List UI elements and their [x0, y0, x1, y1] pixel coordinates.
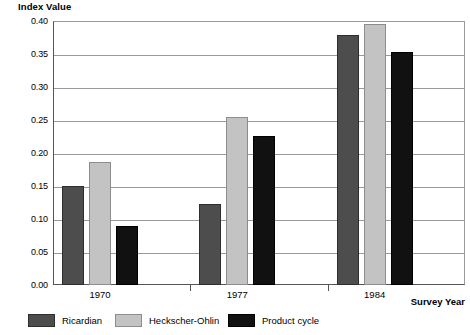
y-axis-tick-label: 0.25 [31, 115, 48, 125]
x-axis-tick [328, 285, 329, 291]
y-axis-tick-label: 0.05 [31, 247, 48, 257]
x-axis-tick-label: 1984 [364, 289, 385, 300]
y-axis-tick-label: 0.00 [31, 280, 48, 290]
bar-group [328, 21, 465, 285]
bar [253, 136, 275, 285]
legend: RicardianHeckscher-OhlinProduct cycle [0, 311, 470, 333]
legend-swatch [28, 314, 55, 327]
y-axis-tick-label: 0.10 [31, 214, 48, 224]
y-axis-tick-label: 0.35 [31, 49, 48, 59]
bar [391, 52, 413, 285]
y-axis-tick-labels: 0.000.050.100.150.200.250.300.350.40 [0, 0, 53, 335]
legend-item: Ricardian [28, 311, 102, 329]
bar [89, 162, 111, 285]
bar [337, 35, 359, 285]
bar [364, 24, 386, 285]
legend-swatch [115, 314, 142, 327]
y-axis-tick-label: 0.15 [31, 181, 48, 191]
legend-label: Product cycle [262, 315, 319, 326]
bar-group [190, 21, 327, 285]
legend-swatch [228, 314, 255, 327]
y-axis-tick-label: 0.30 [31, 82, 48, 92]
legend-label: Ricardian [62, 315, 102, 326]
legend-item: Product cycle [228, 311, 319, 329]
x-axis-title: Survey Year [411, 296, 465, 307]
bar [116, 226, 138, 285]
bars-layer [53, 21, 465, 285]
x-axis-tick-label: 1977 [227, 289, 248, 300]
legend-item: Heckscher-Ohlin [115, 311, 219, 329]
bar-chart: Index Value 0.000.050.100.150.200.250.30… [0, 0, 470, 335]
bar [226, 117, 248, 285]
bar [62, 186, 84, 285]
legend-label: Heckscher-Ohlin [149, 315, 219, 326]
x-axis-tick [190, 285, 191, 291]
x-axis-tick-label: 1970 [89, 289, 110, 300]
bar-group [53, 21, 190, 285]
bar [199, 204, 221, 285]
y-axis-tick-label: 0.40 [31, 16, 48, 26]
y-axis-tick-label: 0.20 [31, 148, 48, 158]
